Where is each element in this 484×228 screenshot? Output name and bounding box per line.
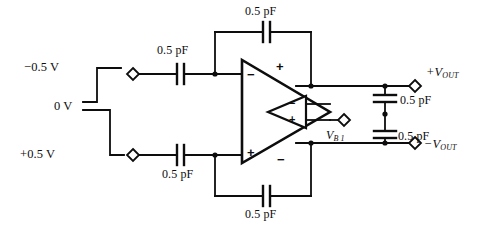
bottom-feedback-capacitor-path (215, 143, 311, 206)
circuit-schematic-svg (0, 0, 484, 228)
bottom-input-branch (127, 145, 242, 165)
amp-outer-plus-bottom-sign: + (247, 146, 255, 159)
output-neg-label-sub: OUT (440, 143, 456, 152)
capacitor-label-input-bottom: 0.5 pF (162, 168, 193, 180)
amp-inner-minus-sign: − (289, 98, 295, 109)
capacitor-label-feedback-top: 0.5 pF (245, 5, 276, 17)
output-terminal-label-positive: +VOUT (426, 66, 459, 79)
amp-outer-minus-bottom-sign: − (277, 153, 285, 166)
input-step-waveform (83, 68, 124, 155)
amp-outer-minus-top-sign: − (247, 68, 255, 81)
bias-terminal-label: VB 1 (326, 129, 345, 141)
capacitor-label-input-top: 0.5 pF (157, 44, 188, 56)
amp-inner-plus-sign: + (289, 114, 295, 125)
capacitor-label-load-top: 0.5 pF (400, 94, 431, 106)
input-level-label-negative: −0.5 V (24, 61, 59, 74)
output-pos-label-main: +V (426, 65, 442, 79)
input-level-label-zero: 0 V (54, 100, 72, 113)
output-terminal-label-negative: −VOUT (424, 138, 457, 151)
bias-label-sub: B 1 (333, 134, 344, 143)
bias-terminal-group (330, 114, 350, 126)
circuit-diagram: −0.5 V 0 V +0.5 V 0.5 pF 0.5 pF 0.5 pF 0… (0, 0, 484, 228)
amp-outer-plus-top-sign: + (276, 60, 284, 73)
output-pos-label-sub: OUT (442, 71, 458, 80)
output-load-capacitors (374, 83, 396, 145)
top-input-branch (127, 64, 242, 84)
input-level-label-positive: +0.5 V (20, 148, 55, 161)
capacitor-label-feedback-bottom: 0.5 pF (245, 208, 276, 220)
output-neg-label-main: −V (424, 137, 440, 151)
